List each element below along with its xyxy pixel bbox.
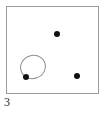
- data-point: [23, 74, 29, 80]
- plot-panel-border: [7, 7, 99, 94]
- figure-container: 3: [0, 0, 105, 116]
- panel-label: 3: [4, 96, 10, 109]
- data-point: [54, 31, 60, 37]
- scatter-plot-figure: [0, 0, 105, 116]
- data-point: [74, 73, 80, 79]
